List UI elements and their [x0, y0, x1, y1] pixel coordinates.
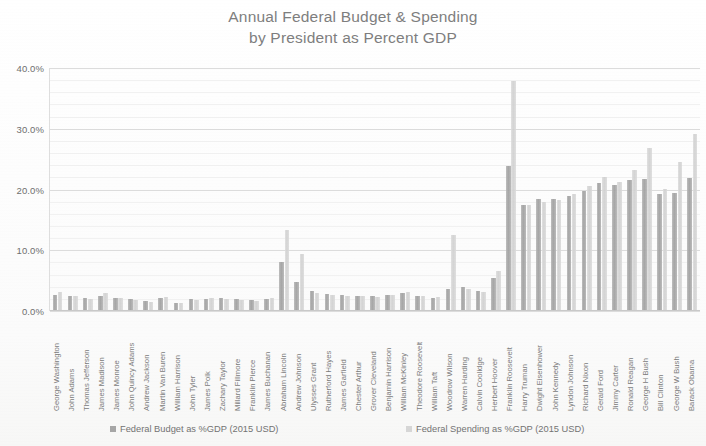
- bar-federal-spending: [390, 295, 395, 311]
- bar-federal-budget: [536, 199, 541, 311]
- bar-federal-spending: [330, 295, 335, 311]
- x-axis-tick-label: George Washington: [53, 343, 61, 411]
- bar-group: [657, 68, 667, 311]
- x-axis-tick-label: James Polk: [204, 371, 212, 411]
- bar-group: [294, 68, 304, 311]
- y-axis-tick-label: 40.0%: [0, 63, 44, 74]
- bar-group: [128, 68, 138, 311]
- bar-federal-budget: [521, 205, 526, 311]
- bar-group: [264, 68, 274, 311]
- bar-group: [506, 68, 516, 311]
- bar-federal-budget: [113, 298, 118, 311]
- x-axis-tick-labels: George WashingtonJohn AdamsThomas Jeffer…: [50, 313, 700, 413]
- bar-federal-spending: [527, 205, 532, 311]
- x-axis-tick-label: Calvin Coolidge: [476, 357, 484, 411]
- bar-group: [627, 68, 637, 311]
- bar-federal-spending: [542, 202, 547, 311]
- legend-swatch-budget-icon: [110, 426, 116, 432]
- x-axis-tick-label: Gerald Ford: [597, 370, 605, 411]
- bar-federal-spending: [375, 297, 380, 311]
- bar-group: [582, 68, 592, 311]
- chart-title-line-2: by President as Percent GDP: [0, 27, 706, 48]
- x-axis-tick-label: James Buchanan: [264, 352, 272, 411]
- bar-federal-budget: [279, 262, 284, 311]
- y-axis-tick-label: 0.0%: [0, 306, 44, 317]
- bar-federal-budget: [400, 293, 405, 311]
- x-axis-tick-label: Grover Cleveland: [370, 351, 378, 411]
- x-axis-tick-label: Thomas Jefferson: [83, 350, 91, 411]
- bar-group: [642, 68, 652, 311]
- bar-group: [310, 68, 320, 311]
- x-axis-tick-label: Woodrow Wilson: [446, 353, 454, 411]
- x-axis-tick-label: John Adams: [68, 369, 76, 411]
- bar-federal-spending: [118, 298, 123, 311]
- bar-group: [204, 68, 214, 311]
- bar-group: [68, 68, 78, 311]
- y-axis-tick-label: 20.0%: [0, 184, 44, 195]
- x-axis-tick-label: Jimmy Carter: [612, 365, 620, 411]
- bar-federal-spending: [315, 293, 320, 311]
- bar-federal-spending: [58, 292, 63, 311]
- bar-group: [355, 68, 365, 311]
- x-axis-tick-label: Abraham Lincoln: [280, 353, 288, 411]
- x-axis-tick-label: Franklin Roosevelt: [506, 347, 514, 411]
- bar-federal-budget: [325, 294, 330, 311]
- y-axis-tick-label: 30.0%: [0, 123, 44, 134]
- bar-group: [143, 68, 153, 311]
- x-axis-tick-label: Ronald Reagan: [627, 358, 635, 411]
- bar-group: [158, 68, 168, 311]
- bar-federal-spending: [647, 148, 652, 311]
- chart-title: Annual Federal Budget & Spending by Pres…: [0, 6, 706, 48]
- bar-group: [385, 68, 395, 311]
- legend-swatch-spending-icon: [406, 426, 412, 432]
- gridline-major: [50, 311, 700, 312]
- bar-group: [234, 68, 244, 311]
- bar-series-container: [50, 68, 700, 311]
- x-axis-tick-label: George H Bush: [642, 358, 650, 411]
- bar-group: [113, 68, 123, 311]
- x-axis-tick-label: Zachary Taylor: [219, 361, 227, 411]
- x-axis-tick-label: Martin Van Buren: [159, 352, 167, 411]
- bar-federal-budget: [446, 289, 451, 311]
- x-axis-tick-label: Barack Obama: [688, 360, 696, 411]
- y-axis-tick-labels: 40.0%30.0%20.0%10.0%0.0%: [0, 68, 46, 311]
- bar-federal-budget: [461, 287, 466, 311]
- bar-federal-spending: [164, 297, 169, 311]
- bar-federal-spending: [617, 182, 622, 311]
- bar-group: [446, 68, 456, 311]
- x-axis-tick-label: Millard Fillmore: [234, 359, 242, 411]
- bar-federal-budget: [431, 298, 436, 311]
- bar-federal-budget: [310, 291, 315, 311]
- bar-group: [370, 68, 380, 311]
- legend-label-budget: Federal Budget as %GDP (2015 USD): [120, 424, 278, 434]
- bar-group: [98, 68, 108, 311]
- x-axis-tick-label: Andrew Jackson: [143, 355, 151, 411]
- y-axis-tick-label: 10.0%: [0, 245, 44, 256]
- bar-federal-spending: [496, 271, 501, 311]
- bar-federal-budget: [355, 296, 360, 311]
- x-axis-tick-label: Benjamin Harrison: [385, 348, 393, 411]
- bar-group: [53, 68, 63, 311]
- bar-federal-budget: [612, 185, 617, 311]
- bar-group: [400, 68, 410, 311]
- x-axis-tick-label: Franklin Pierce: [249, 360, 257, 411]
- bar-federal-budget: [415, 296, 420, 311]
- bar-federal-spending: [572, 194, 577, 311]
- x-axis-tick-label: Harry Truman: [521, 364, 529, 411]
- x-axis-tick-label: Warren Harding: [461, 357, 469, 411]
- legend-item-federal-budget: Federal Budget as %GDP (2015 USD): [110, 424, 278, 434]
- x-axis-tick-label: Ulysses Grant: [310, 363, 318, 411]
- x-axis-tick-label: James Madison: [98, 357, 106, 411]
- chart-legend: Federal Budget as %GDP (2015 USD) Federa…: [0, 424, 706, 442]
- bar-federal-spending: [300, 254, 305, 311]
- bar-group: [597, 68, 607, 311]
- bar-federal-spending: [103, 293, 108, 311]
- bar-federal-budget: [385, 295, 390, 311]
- bar-federal-budget: [491, 278, 496, 311]
- legend-label-spending: Federal Spending as %GDP (2015 USD): [416, 424, 584, 434]
- bar-group: [461, 68, 471, 311]
- x-axis-tick-label: Dwight Eisenhower: [536, 345, 544, 411]
- bar-federal-spending: [511, 81, 516, 311]
- bar-group: [189, 68, 199, 311]
- bar-federal-budget: [687, 178, 692, 311]
